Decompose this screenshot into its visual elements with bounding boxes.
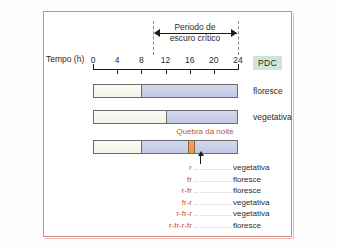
axis-tick-label-20: 20 [209,55,218,65]
bar-2-night-segment [167,111,238,123]
axis-tick-16 [190,69,191,74]
axis-tick-4 [117,69,118,74]
axis-tick-label-24: 24 [233,55,242,65]
bar-3-day-segment [94,141,142,153]
bar-row-1 [93,84,238,98]
legend-outcome: vegetativa [233,209,285,218]
legend-dot-leader: .............. [192,175,233,184]
axis-tick-12 [166,69,167,74]
legend-treatment-code: r [120,163,192,172]
legend-row: fr-r..............vegetativa [120,198,285,210]
legend-dot-leader: .............. [192,209,233,218]
bar-2-day-segment [94,111,167,123]
night-break-label: Quebra da noite [150,127,260,136]
bar-1-day-segment [94,85,142,97]
bar-row-2 [93,110,238,124]
legend-outcome: floresce [233,175,285,184]
bar-2-outcome-label: vegetativa [253,112,292,122]
legend-row: r..............vegetativa [120,163,285,175]
legend-row: r-fr-r..............vegetativa [120,209,285,221]
critical-period-label-line2: escuro crítico [140,33,250,44]
legend-outcome: floresce [233,186,285,195]
bar-1-night-segment [142,85,237,97]
legend-outcome: vegetativa [233,163,285,172]
legend-treatment-code: fr [120,175,192,184]
legend-outcome: vegetativa [233,198,285,207]
bar-row-3 [93,140,238,154]
legend-outcome: floresce [233,221,285,230]
bar-3-night-break-segment [188,141,195,153]
legend-dot-leader: .............. [192,186,233,195]
legend-dot-leader: .............. [192,163,233,172]
axis-title: Tempo (h) [46,54,84,64]
legend-treatment-code: r-fr-r-fr [120,221,192,230]
axis-tick-label-0: 0 [91,55,96,65]
legend-treatment-code: r-fr-r [120,209,192,218]
axis-tick-20 [214,69,215,74]
night-break-arrow-icon [198,151,204,156]
legend-row: r-fr-r-fr..............floresce [120,221,285,233]
axis-tick-label-16: 16 [185,55,194,65]
legend-dot-leader: .............. [192,221,233,230]
legend-treatment-code: fr-r [120,198,192,207]
legend-row: r-fr..............floresce [120,186,285,198]
axis-tick-label-12: 12 [161,55,170,65]
pdc-badge: PDC [253,56,282,70]
legend-treatment-code: r-fr [120,186,192,195]
bar-3-night-segment-before [142,141,188,153]
axis-tick-label-4: 4 [115,55,120,65]
critical-period-label-line1: Periodo de [140,22,250,33]
legend-dot-leader: .............. [192,198,233,207]
photoperiodism-figure: Periodo de escuro crítico Tempo (h) 0481… [0,0,338,251]
treatment-legend: r..............vegetativafr.............… [120,163,285,232]
critical-period-label: Periodo de escuro crítico [140,22,250,44]
bar-1-outcome-label: floresce [253,86,283,96]
axis-tick-8 [141,69,142,74]
axis-tick-label-8: 8 [139,55,144,65]
legend-row: fr..............floresce [120,175,285,187]
